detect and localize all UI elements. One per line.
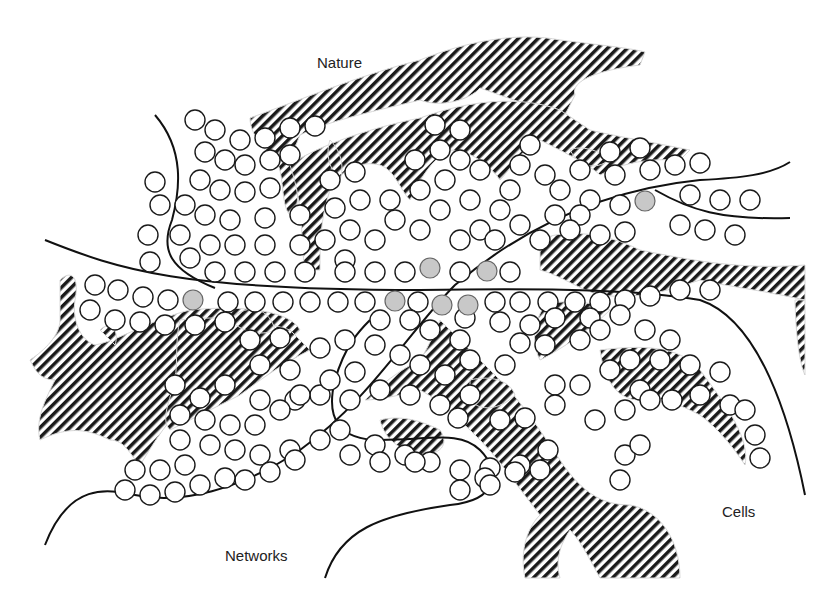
label-networks: Networks — [225, 547, 288, 564]
label-nature: Nature — [317, 54, 362, 71]
label-cells: Cells — [722, 503, 755, 520]
diagram-canvas: Nature Cells Networks — [0, 0, 833, 608]
diagram-svg — [0, 0, 833, 608]
